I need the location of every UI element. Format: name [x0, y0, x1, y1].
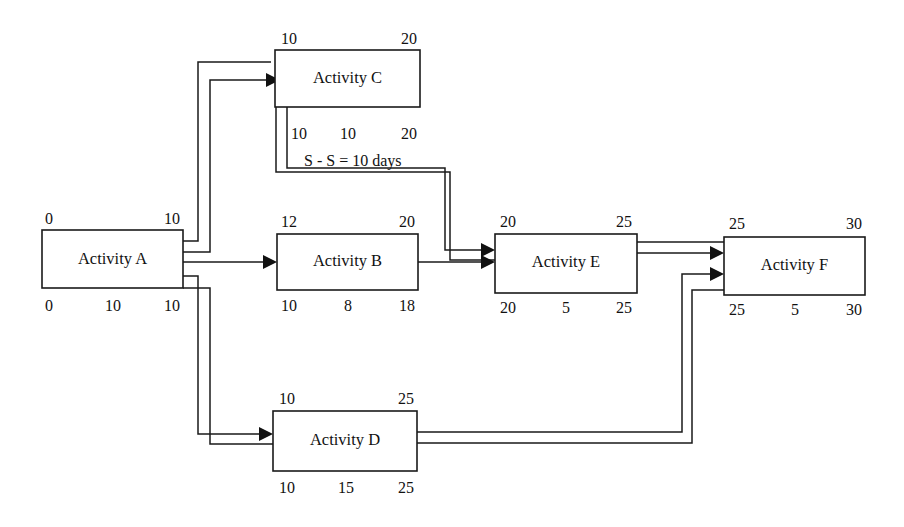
activity-d-duration: 15 [338, 479, 354, 496]
arrowhead-into-activity-b [263, 255, 277, 269]
network-diagram-canvas: Activity A 0 10 0 10 10 Activity C 10 20… [0, 0, 904, 527]
arrowhead-into-activity-f-from-e [710, 246, 724, 260]
node-activity-a[interactable]: Activity A 0 10 0 10 10 [42, 210, 183, 314]
start-to-start-lag-note: S - S = 10 days [304, 152, 401, 170]
activity-b-late-start: 10 [281, 297, 297, 314]
node-activity-e[interactable]: Activity E 20 25 20 5 25 [495, 213, 637, 316]
activity-b-duration: 8 [344, 297, 352, 314]
activity-a-late-finish: 10 [164, 297, 180, 314]
activity-a-duration: 10 [105, 297, 121, 314]
edge-b-to-e [418, 255, 495, 269]
edge-a-to-d-outer [183, 276, 259, 434]
activity-c-late-start: 10 [291, 125, 307, 142]
edge-a-to-d-inner [183, 288, 273, 444]
activity-c-duration: 10 [340, 125, 356, 142]
activity-e-early-finish: 25 [616, 213, 632, 230]
activity-c-label: Activity C [313, 68, 382, 87]
activity-d-early-start: 10 [279, 390, 295, 407]
edge-e-to-f [637, 242, 724, 260]
activity-d-label: Activity D [310, 430, 380, 449]
activity-f-early-finish: 30 [846, 215, 862, 232]
activity-f-duration: 5 [791, 301, 799, 318]
edge-a-to-c-outer [183, 62, 271, 241]
activity-b-early-start: 12 [281, 213, 297, 230]
edge-d-to-f-inner [417, 274, 710, 432]
edge-d-to-f-outer [417, 290, 724, 443]
node-activity-c[interactable]: Activity C 10 20 10 10 20 S - S = 10 day… [275, 30, 420, 170]
activity-b-early-finish: 20 [399, 213, 415, 230]
edge-a-to-b [183, 255, 277, 269]
activity-d-late-start: 10 [279, 479, 295, 496]
activity-c-early-start: 10 [281, 30, 297, 47]
edge-c-to-e-inner [287, 107, 481, 250]
activity-a-early-finish: 10 [164, 210, 180, 227]
arrowhead-into-activity-d [259, 427, 273, 441]
activity-f-late-finish: 30 [846, 301, 862, 318]
edge-a-to-c [183, 62, 280, 252]
activity-b-late-finish: 18 [399, 297, 415, 314]
node-activity-b[interactable]: Activity B 12 20 10 8 18 [277, 213, 418, 314]
activity-f-label: Activity F [761, 255, 828, 274]
activity-f-late-start: 25 [729, 301, 745, 318]
node-activity-f[interactable]: Activity F 25 30 25 5 30 [724, 215, 865, 318]
connectors-layer [183, 62, 724, 444]
activity-e-label: Activity E [532, 252, 600, 271]
precedence-network-diagram: Activity A 0 10 0 10 10 Activity C 10 20… [0, 0, 904, 527]
activity-d-late-finish: 25 [398, 479, 414, 496]
activity-a-label: Activity A [78, 249, 147, 268]
activity-e-late-finish: 25 [616, 299, 632, 316]
activity-e-duration: 5 [562, 299, 570, 316]
activity-f-early-start: 25 [729, 215, 745, 232]
edge-a-to-d [183, 276, 273, 444]
node-activity-d[interactable]: Activity D 10 25 10 15 25 [273, 390, 417, 496]
activity-b-label: Activity B [313, 251, 382, 270]
activity-c-early-finish: 20 [401, 30, 417, 47]
arrowhead-into-activity-e-from-b [481, 255, 495, 269]
arrowhead-into-activity-e-from-c [481, 243, 495, 257]
activity-e-early-start: 20 [500, 213, 516, 230]
edge-a-to-c-inner [183, 80, 266, 252]
activity-a-late-start: 0 [45, 297, 53, 314]
activity-c-late-finish: 20 [401, 125, 417, 142]
activity-a-early-start: 0 [45, 210, 53, 227]
activity-d-early-finish: 25 [398, 390, 414, 407]
activity-e-late-start: 20 [500, 299, 516, 316]
arrowhead-into-activity-f-from-d [710, 267, 724, 281]
